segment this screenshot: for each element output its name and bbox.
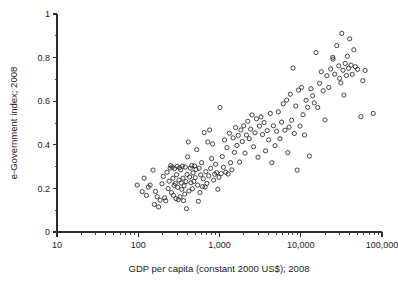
data-point bbox=[246, 119, 250, 123]
data-point bbox=[201, 177, 205, 181]
data-point bbox=[234, 125, 238, 129]
data-point bbox=[302, 133, 306, 137]
data-point bbox=[198, 190, 202, 194]
data-point bbox=[250, 113, 254, 117]
data-point bbox=[265, 129, 269, 133]
data-point bbox=[295, 168, 299, 172]
chart-figure: 00.20.40.60.81 101001,00010,000100,000 G… bbox=[0, 0, 398, 286]
data-point bbox=[214, 162, 218, 166]
data-point bbox=[216, 187, 220, 191]
data-point bbox=[294, 104, 298, 108]
data-point bbox=[309, 87, 313, 91]
data-point bbox=[184, 180, 188, 184]
data-point bbox=[152, 202, 156, 206]
data-point bbox=[257, 124, 261, 128]
data-point bbox=[292, 131, 296, 135]
data-point bbox=[299, 85, 303, 89]
data-point bbox=[151, 168, 155, 172]
y-tick-label: 0.8 bbox=[37, 53, 50, 63]
data-point bbox=[339, 81, 343, 85]
data-point bbox=[186, 140, 190, 144]
data-point bbox=[288, 92, 292, 96]
data-point bbox=[181, 199, 185, 203]
data-point bbox=[160, 182, 164, 186]
x-tick-label: 10 bbox=[52, 240, 62, 250]
data-point bbox=[270, 161, 274, 165]
data-point bbox=[221, 165, 225, 169]
data-point bbox=[312, 101, 316, 105]
data-point bbox=[176, 185, 180, 189]
data-point bbox=[317, 81, 321, 85]
data-point bbox=[343, 61, 347, 65]
data-point bbox=[195, 183, 199, 187]
data-point bbox=[327, 85, 331, 89]
data-point bbox=[262, 120, 266, 124]
data-point bbox=[205, 181, 209, 185]
data-point bbox=[188, 175, 192, 179]
data-point bbox=[335, 44, 339, 48]
data-points bbox=[135, 31, 375, 210]
data-point bbox=[227, 131, 231, 135]
y-tick-label: 0.6 bbox=[37, 96, 50, 106]
x-tick-label: 100 bbox=[131, 240, 146, 250]
data-point bbox=[344, 73, 348, 77]
data-point bbox=[285, 98, 289, 102]
data-point bbox=[199, 161, 203, 165]
data-point bbox=[244, 133, 248, 137]
data-point bbox=[273, 144, 277, 148]
y-tick-label: 0 bbox=[45, 227, 50, 237]
y-tick-label: 0.2 bbox=[37, 184, 50, 194]
data-point bbox=[167, 179, 171, 183]
data-point bbox=[254, 117, 258, 121]
data-point bbox=[345, 54, 349, 58]
data-point bbox=[267, 138, 271, 142]
data-point bbox=[271, 124, 275, 128]
data-point bbox=[260, 132, 264, 136]
data-point bbox=[349, 63, 353, 67]
data-point bbox=[275, 129, 279, 133]
data-point bbox=[316, 105, 320, 109]
data-point bbox=[206, 140, 210, 144]
data-point bbox=[247, 137, 251, 141]
data-point bbox=[286, 151, 290, 155]
data-point bbox=[276, 110, 280, 114]
data-point bbox=[177, 178, 181, 182]
data-point bbox=[230, 168, 234, 172]
data-point bbox=[232, 150, 236, 154]
data-point bbox=[253, 131, 257, 135]
y-tick-label: 0.4 bbox=[37, 140, 50, 150]
data-point bbox=[204, 170, 208, 174]
data-point bbox=[301, 113, 305, 117]
data-point bbox=[251, 145, 255, 149]
data-point bbox=[342, 93, 346, 97]
data-point bbox=[361, 79, 365, 83]
data-point bbox=[278, 137, 282, 141]
x-axis-tick-labels: 101001,00010,000100,000 bbox=[52, 240, 398, 250]
data-point bbox=[165, 170, 169, 174]
data-point bbox=[158, 198, 162, 202]
scatter-plot: 00.20.40.60.81 101001,00010,000100,000 G… bbox=[0, 0, 398, 286]
data-point bbox=[235, 143, 239, 147]
data-point bbox=[157, 205, 161, 209]
data-point bbox=[195, 148, 199, 152]
data-point bbox=[212, 178, 216, 182]
data-point bbox=[363, 68, 367, 72]
data-point bbox=[240, 139, 244, 143]
x-tick-label: 10,000 bbox=[287, 240, 315, 250]
y-tick-label: 1 bbox=[45, 9, 50, 19]
data-point bbox=[287, 125, 291, 129]
data-point bbox=[323, 118, 327, 122]
data-point bbox=[225, 146, 229, 150]
data-point bbox=[209, 166, 213, 170]
data-point bbox=[229, 161, 233, 165]
data-point bbox=[340, 31, 344, 35]
data-point bbox=[280, 120, 284, 124]
data-point bbox=[218, 105, 222, 109]
data-point bbox=[166, 187, 170, 191]
data-point bbox=[222, 138, 226, 142]
y-axis-title: e-Government index; 2008 bbox=[8, 67, 19, 179]
data-point bbox=[202, 130, 206, 134]
data-point bbox=[298, 124, 302, 128]
data-point bbox=[236, 133, 240, 137]
y-axis-ticks bbox=[53, 14, 57, 232]
